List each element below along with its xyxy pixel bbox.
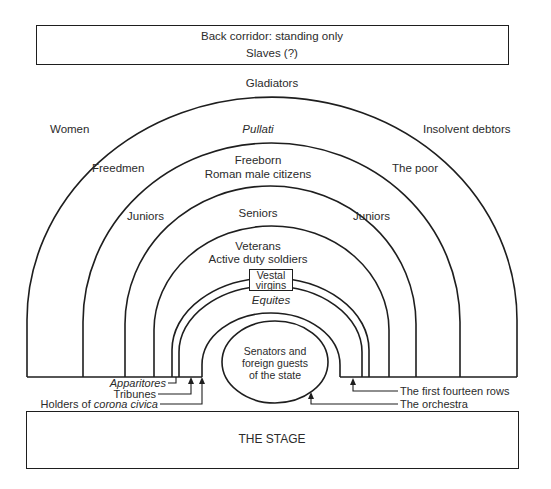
active-duty-soldiers-label: Active duty soldiers [208,253,307,266]
freeborn-label: Freeborn [235,154,282,167]
women-label: Women [50,123,89,136]
the-poor-label: The poor [392,162,438,175]
orchestra-label: The orchestra [400,398,468,411]
leader-first-fourteen [353,384,398,391]
gladiators-label: Gladiators [246,77,298,90]
veterans-label: Veterans [235,240,280,253]
arrowhead-tribunes [188,377,194,384]
equites-label: Equites [252,294,290,307]
leader-apparitores [168,377,176,383]
arrowhead-first-fourteen [350,378,356,385]
seniors-label: Seniors [239,207,278,220]
slaves-label: Slaves (?) [246,47,298,60]
corona-civica-label: Holders of corona civica [41,398,158,411]
back-corridor-label: Back corridor: standing only [201,30,343,43]
pullati-label: Pullati [242,123,273,136]
arrowhead-corona [199,377,205,384]
corona-italic: corona civica [94,398,158,410]
roman-male-citizens-label: Roman male citizens [205,168,312,181]
juniors-left-label: Juniors [127,210,164,223]
leader-orchestra [311,398,398,404]
first-fourteen-rows-label: The first fourteen rows [400,385,509,398]
freedmen-label: Freedmen [92,162,144,175]
stage-label: THE STAGE [238,433,305,446]
insolvent-debtors-label: Insolvent debtors [423,123,511,136]
arc-outer [27,97,517,377]
vestal-line2: virgins [250,281,292,291]
juniors-right-label: Juniors [353,210,390,223]
senators-label-line3: of the state [249,369,301,382]
corona-prefix: Holders of [41,398,94,410]
vestal-virgins-box: Vestal virgins [249,269,293,291]
